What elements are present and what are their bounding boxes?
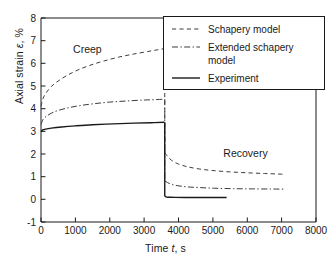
legend-label-experiment: Experiment	[208, 73, 259, 84]
series-0-creep-curve	[41, 49, 164, 107]
series-1-recovery-curve	[165, 181, 285, 189]
annotation-recovery: Recovery	[223, 147, 268, 159]
y-tick-label: 2	[30, 149, 36, 160]
x-axis-ticks	[41, 218, 316, 223]
x-tick-label: 7000	[270, 225, 293, 236]
chart-plot-area: 8 7 6 5 4 3 2 1 0 -1 0 1000 2000	[0, 0, 331, 267]
x-axis-label-unit: , s	[175, 242, 186, 254]
x-tick-label: 6000	[236, 225, 259, 236]
x-tick-label: 8000	[305, 225, 328, 236]
y-axis-label-symbol: ε	[13, 44, 25, 49]
legend-label-schapery: Schapery model	[208, 24, 280, 35]
annotation-creep: Creep	[73, 43, 102, 55]
y-axis-label-text: Axial strain	[13, 51, 25, 104]
series-1-creep-curve	[41, 99, 164, 124]
series-2-recovery-curve	[165, 196, 227, 197]
legend-label-extended-schapery-line2: model	[208, 55, 235, 66]
x-tick-label: 0	[38, 225, 44, 236]
x-tick-label: 1000	[64, 225, 87, 236]
y-tick-label: 4	[30, 103, 36, 114]
y-tick-label: 0	[30, 194, 36, 205]
x-tick-label: 2000	[99, 225, 122, 236]
legend-label-extended-schapery: Extended schapery	[208, 42, 294, 53]
x-tick-label: 5000	[202, 225, 225, 236]
y-tick-label: 6	[30, 58, 36, 69]
chart-figure: 8 7 6 5 4 3 2 1 0 -1 0 1000 2000	[0, 0, 331, 267]
x-axis-tick-labels: 0 1000 2000 3000 4000 5000 6000 7000 800…	[38, 225, 327, 236]
y-tick-label: 8	[30, 13, 36, 24]
y-tick-label: 7	[30, 35, 36, 46]
series-2-creep-curve	[41, 122, 164, 132]
chart-legend: Schapery model Extended schapery model E…	[164, 17, 325, 90]
y-tick-label: -1	[27, 217, 36, 228]
y-tick-label: 1	[30, 171, 36, 182]
x-axis-label-text: Time	[145, 242, 168, 254]
x-axis-label: Time t, s	[0, 242, 331, 254]
y-axis-label-unit: , %	[13, 28, 25, 43]
x-tick-label: 3000	[133, 225, 156, 236]
x-tick-label: 4000	[167, 225, 190, 236]
y-tick-label: 3	[30, 126, 36, 137]
y-tick-label: 5	[30, 81, 36, 92]
y-axis-label: Axial strain ε, %	[13, 1, 29, 131]
